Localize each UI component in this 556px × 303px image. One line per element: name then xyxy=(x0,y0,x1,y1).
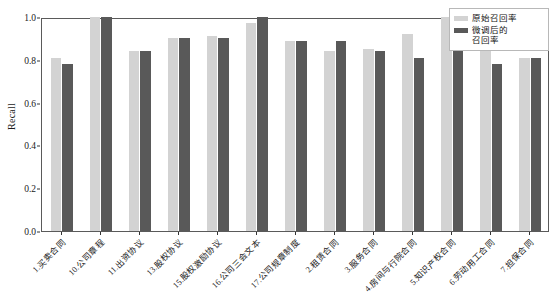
bar-original-recall xyxy=(480,51,491,231)
x-axis-tick-mark xyxy=(100,232,101,235)
x-axis-tick-mark xyxy=(61,232,62,235)
bar-group xyxy=(198,19,237,231)
y-axis-tick-label: 0.6 xyxy=(24,99,36,109)
y-axis-tick-label: 0.2 xyxy=(24,184,36,194)
x-axis-tick-mark xyxy=(256,232,257,235)
bar-original-recall xyxy=(246,23,257,231)
bar-group xyxy=(276,19,315,231)
x-axis-tick-mark xyxy=(373,232,374,235)
y-axis-tick-labels: 0.00.20.40.60.81.0 xyxy=(14,18,40,232)
y-axis-tick-mark xyxy=(37,60,40,61)
x-axis-tick-mark xyxy=(295,232,296,235)
x-axis-tick-mark xyxy=(529,232,530,235)
bar-original-recall xyxy=(51,58,62,231)
bar-original-recall xyxy=(207,36,218,231)
bar-finetuned-recall xyxy=(140,51,151,231)
y-axis-tick-label: 0.8 xyxy=(24,56,36,66)
bar-chart-figure: Recall 0.00.20.40.60.81.0 1.买卖合同10.公司章程1… xyxy=(0,0,556,303)
bar-original-recall xyxy=(324,51,335,231)
bar-finetuned-recall xyxy=(336,41,347,231)
chart-legend: 原始召回率 微调后的 召回率 xyxy=(449,8,549,51)
legend-label-original: 原始召回率 xyxy=(472,13,545,24)
y-axis-tick-mark xyxy=(37,232,40,233)
y-axis-tick-label: 0.0 xyxy=(24,227,36,237)
legend-swatch-original xyxy=(454,16,468,21)
bar-finetuned-recall xyxy=(179,38,190,231)
bar-group xyxy=(42,19,81,231)
legend-swatch-finetuned xyxy=(454,28,468,33)
bar-group xyxy=(316,19,355,231)
bar-finetuned-recall xyxy=(414,58,425,231)
bar-finetuned-recall xyxy=(296,41,307,231)
bar-finetuned-recall xyxy=(492,64,503,231)
legend-item-original: 原始召回率 xyxy=(454,13,545,24)
y-axis-tick-label: 1.0 xyxy=(24,13,36,23)
bar-finetuned-recall xyxy=(375,51,386,231)
y-axis-tick-mark xyxy=(37,18,40,19)
bar-finetuned-recall xyxy=(218,38,229,231)
x-axis-tick-mark xyxy=(217,232,218,235)
y-axis-tick-mark xyxy=(37,146,40,147)
bar-original-recall xyxy=(90,17,101,231)
bar-original-recall xyxy=(363,49,374,231)
bar-group xyxy=(81,19,120,231)
x-axis-tick-mark xyxy=(178,232,179,235)
bar-original-recall xyxy=(519,58,530,231)
bar-original-recall xyxy=(285,41,296,231)
y-axis-tick-mark xyxy=(37,103,40,104)
y-axis-tick-label: 0.4 xyxy=(24,141,36,151)
x-axis-tick-mark xyxy=(490,232,491,235)
legend-label-finetuned: 微调后的 召回率 xyxy=(472,25,545,46)
bar-finetuned-recall xyxy=(101,17,112,231)
x-axis-tick-mark xyxy=(412,232,413,235)
y-axis-tick-mark xyxy=(37,189,40,190)
bar-group xyxy=(120,19,159,231)
bar-finetuned-recall xyxy=(531,58,542,231)
bar-group xyxy=(394,19,433,231)
bar-original-recall xyxy=(129,51,140,231)
bar-group xyxy=(159,19,198,231)
bar-finetuned-recall xyxy=(62,64,73,231)
bar-group xyxy=(355,19,394,231)
bar-original-recall xyxy=(402,34,413,231)
legend-item-finetuned: 微调后的 召回率 xyxy=(454,25,545,46)
x-axis-tick-mark xyxy=(139,232,140,235)
bar-original-recall xyxy=(168,38,179,231)
x-axis-tick-mark xyxy=(451,232,452,235)
bar-finetuned-recall xyxy=(257,17,268,231)
x-axis-tick-mark xyxy=(334,232,335,235)
x-axis-tick-labels: 1.买卖合同10.公司章程11.出资协议13.股权协议15.股权激励协议16.公… xyxy=(41,236,549,303)
bar-group xyxy=(237,19,276,231)
